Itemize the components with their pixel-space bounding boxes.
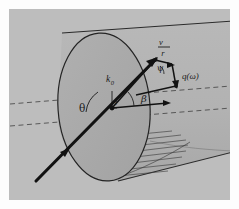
diagram-canvas: θ β ψ k0 r v r q(ω)	[0, 0, 239, 209]
triangle-lower-node	[174, 84, 178, 88]
theta-label: θ	[79, 102, 85, 114]
velocity-numerator-label: v	[159, 37, 163, 47]
figure-root: θ β ψ k0 r v r q(ω)	[0, 0, 239, 209]
beta-label: β	[140, 93, 147, 104]
psi-label: ψ	[157, 63, 164, 73]
scattering-vector-label: q(ω)	[182, 71, 199, 81]
q-argument: (ω)	[187, 71, 199, 81]
